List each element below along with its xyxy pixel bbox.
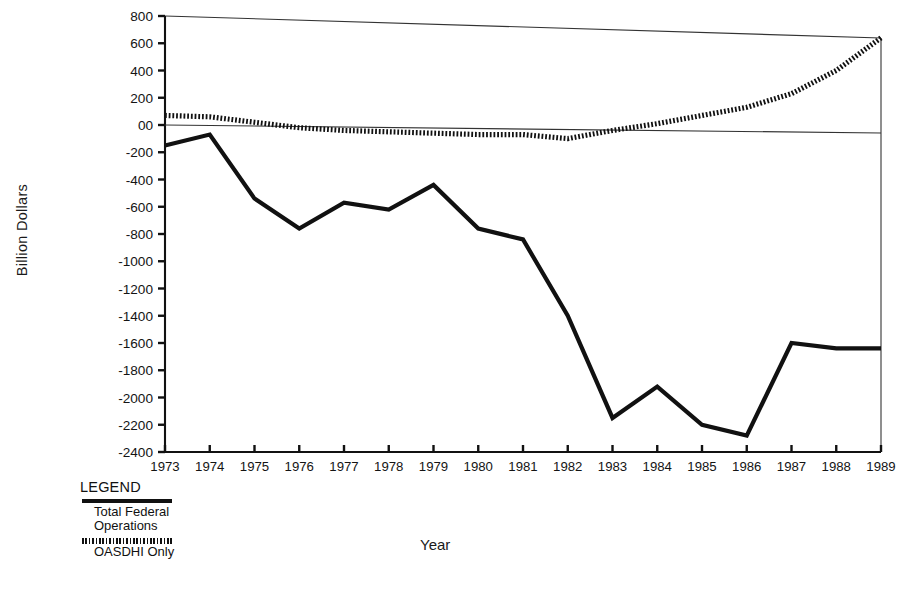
legend: LEGEND Total Federal Operations OASDHI O… <box>80 479 310 559</box>
y-tick-label: 200 <box>130 91 153 106</box>
x-tick-label: 1975 <box>240 459 269 474</box>
x-tick-label: 1981 <box>508 459 537 474</box>
x-tick-label: 1974 <box>195 459 224 474</box>
legend-item-oasdhi-only: OASDHI Only <box>80 538 310 559</box>
y-tick-label: 400 <box>130 64 153 79</box>
x-tick-label: 1980 <box>464 459 493 474</box>
x-tick-label: 1987 <box>777 459 806 474</box>
y-tick-label: -2200 <box>118 418 153 433</box>
x-axis-title: Year <box>420 536 450 553</box>
legend-label-line2: Operations <box>94 519 310 533</box>
legend-label-oasdhi: OASDHI Only <box>94 545 310 559</box>
plot-frame-top <box>165 16 881 38</box>
x-tick-label: 1982 <box>553 459 582 474</box>
y-tick-label: -2400 <box>118 445 153 460</box>
series-line-oasdhi-only <box>165 38 881 139</box>
y-tick-label: -1600 <box>118 336 153 351</box>
y-tick-label: -1400 <box>118 309 153 324</box>
legend-swatch-solid-icon <box>82 499 172 503</box>
y-tick-label: -200 <box>126 145 154 160</box>
x-tick-label: 1978 <box>374 459 403 474</box>
y-tick-label: 800 <box>130 9 153 24</box>
x-tick-label: 1988 <box>822 459 851 474</box>
x-tick-label: 1977 <box>329 459 358 474</box>
y-tick-label: 600 <box>130 36 153 51</box>
legend-label-line1: Total Federal <box>94 505 310 519</box>
y-tick-label: -800 <box>126 227 154 242</box>
y-tick-label: -1800 <box>118 363 153 378</box>
line-chart-plot: 80060040020000-200-400-600-800-1000-1200… <box>0 0 909 478</box>
legend-title: LEGEND <box>80 479 310 495</box>
series-line-total-federal-operations <box>165 135 881 436</box>
y-tick-label: -1200 <box>118 282 153 297</box>
x-tick-label: 1983 <box>598 459 627 474</box>
x-tick-label: 1979 <box>419 459 448 474</box>
x-tick-label: 1973 <box>150 459 179 474</box>
x-tick-label: 1989 <box>866 459 895 474</box>
legend-item-total-federal-operations: Total Federal Operations <box>80 499 310 533</box>
x-tick-label: 1984 <box>643 459 672 474</box>
x-tick-label: 1986 <box>732 459 761 474</box>
x-tick-label: 1976 <box>285 459 314 474</box>
y-tick-label: 00 <box>138 118 154 133</box>
y-tick-label: -2000 <box>118 391 153 406</box>
y-tick-label: -1000 <box>118 254 153 269</box>
x-tick-label: 1985 <box>687 459 716 474</box>
y-tick-label: -400 <box>126 173 154 188</box>
chart-figure: Billion Dollars 80060040020000-200-400-6… <box>0 0 909 598</box>
y-tick-label: -600 <box>126 200 154 215</box>
